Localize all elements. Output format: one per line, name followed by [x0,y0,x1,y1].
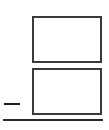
dash-marker [4,103,20,105]
bottom-rectangle [32,68,102,115]
top-rectangle [32,16,102,63]
baseline-rule [3,119,103,121]
